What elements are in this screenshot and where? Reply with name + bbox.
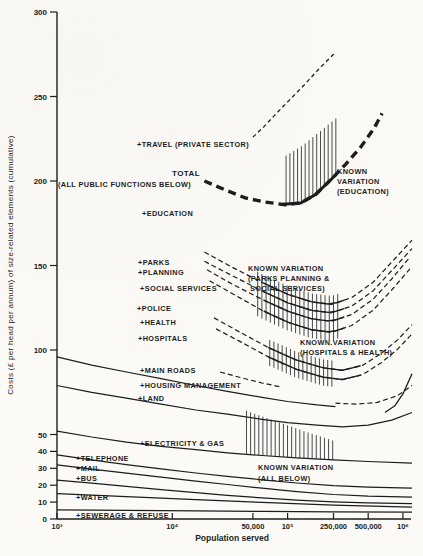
x-tick-label-50000: 50,000: [241, 522, 264, 531]
annotation-24: +TELEPHONE: [76, 454, 129, 463]
annotation-28: +SEWERAGE & REFUSE: [76, 511, 169, 520]
x-tick-label-500000: 500,000: [355, 522, 382, 531]
annotation-12: +HOSPITALS: [138, 334, 187, 343]
annotation-25: +MAIL: [76, 464, 100, 473]
x-tick-label-100000: 10⁵: [282, 522, 294, 531]
x-axis-title: Population served: [195, 533, 269, 543]
y-tick-label-150: 150: [34, 262, 48, 271]
y-tick-label-20: 20: [38, 481, 47, 490]
annotation-26: +BUS: [76, 474, 97, 483]
y-tick-label-300: 300: [34, 8, 48, 17]
annotation-2: (ALL PUBLIC FUNCTIONS BELOW): [58, 180, 191, 189]
scanned-cost-curves-figure: 0102030405010015020025030010³10⁴50,00010…: [0, 0, 423, 556]
annotation-18: +MAIN ROADS: [140, 366, 196, 375]
annotation-16: KNOWN.VARIATION: [300, 338, 375, 347]
annotation-8: +PLANNING: [138, 268, 184, 277]
annotation-20: +LAND: [138, 394, 165, 403]
annotation-13: KNOWN VARIATION: [248, 264, 323, 273]
annotation-14: (PARKS PLANNING &: [248, 274, 330, 283]
annotation-10: +POLICE: [137, 304, 171, 313]
annotation-4: VARIATION: [337, 177, 380, 186]
annotation-15: SOCIAL SERVICES): [250, 284, 325, 293]
y-tick-label-100: 100: [34, 346, 48, 355]
annotation-5: (EDUCATION): [337, 187, 389, 196]
y-tick-label-10: 10: [38, 498, 47, 507]
x-tick-label-1000000: 10⁶: [397, 522, 409, 531]
annotation-11: +HEALTH: [140, 318, 176, 327]
annotation-23: (ALL BELOW): [258, 474, 311, 483]
annotation-27: +WATER: [76, 493, 109, 502]
annotation-0: +TRAVEL (PRIVATE SECTOR): [137, 140, 249, 149]
y-tick-label-0: 0: [43, 515, 48, 524]
chart-canvas: 0102030405010015020025030010³10⁴50,00010…: [0, 0, 423, 556]
y-tick-label-200: 200: [34, 177, 48, 186]
y-tick-label-50: 50: [38, 431, 47, 440]
annotation-9: +SOCIAL SERVICES: [140, 284, 217, 293]
annotation-21: +ELECTRICITY & GAS: [140, 439, 224, 448]
annotation-22: KNOWN VARIATION: [258, 463, 333, 472]
x-tick-label-250000: 250,000: [320, 522, 347, 531]
y-tick-label-30: 30: [38, 464, 47, 473]
annotation-6: +EDUCATION: [142, 209, 193, 218]
annotation-17: (HOSPITALS & HEALTH): [300, 348, 393, 357]
annotation-19: +HOUSING MANAGEMENT: [140, 381, 241, 390]
y-axis-title: Costs (£ per head per annum) of size-rel…: [6, 135, 15, 394]
annotation-3: KNOWN: [337, 167, 367, 176]
paper-background: [0, 0, 423, 556]
y-tick-label-250: 250: [34, 93, 48, 102]
y-tick-label-40: 40: [38, 447, 47, 456]
x-tick-label-10000: 10⁴: [166, 522, 178, 531]
x-tick-label-1000: 10³: [52, 522, 63, 531]
annotation-1: TOTAL: [172, 169, 200, 178]
annotation-7: +PARKS: [138, 258, 170, 267]
